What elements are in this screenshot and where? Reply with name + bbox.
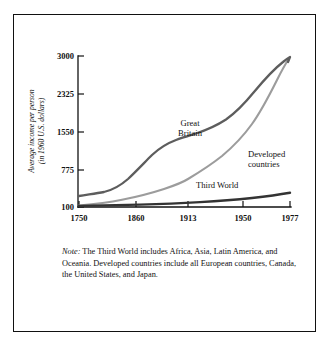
x-tick-label-1977: 1977 <box>282 213 300 223</box>
x-tick-label-1950: 1950 <box>235 213 252 223</box>
x-tick-label-1750: 1750 <box>71 213 88 223</box>
chart-note-body: The Third World includes Africa, Asia, L… <box>62 247 296 279</box>
x-tick-label-1860: 1860 <box>128 213 145 223</box>
series-label-great-britain-line2: Britain <box>178 128 203 138</box>
y-tick-label-775: 775 <box>61 165 74 175</box>
y-tick-label-3000: 3000 <box>57 51 74 61</box>
y-tick-label-2325: 2325 <box>57 89 74 99</box>
y-axis-title: Average income per person (in 1960 U.S. … <box>27 89 46 174</box>
chart-note-label: Note: <box>62 247 80 256</box>
series-label-third-world: Third World <box>196 180 239 190</box>
series-label-developed-countries-line1: Developed <box>248 149 286 159</box>
chart-note: Note: The Third World includes Africa, A… <box>62 246 300 281</box>
figure-container: 3000 2325 1550 775 100 1750 1860 1913 19… <box>0 0 331 349</box>
chart-plot-area: 3000 2325 1550 775 100 1750 1860 1913 19… <box>0 0 331 349</box>
y-tick-label-1550: 1550 <box>57 127 74 137</box>
y-axis-title-line1: Average income per person <box>27 89 36 174</box>
series-line-third-world <box>79 193 290 206</box>
y-axis-title-line2: (in 1960 U.S. dollars) <box>37 97 46 164</box>
series-label-great-britain-line1: Great <box>180 118 200 128</box>
y-tick-label-100: 100 <box>61 202 74 212</box>
x-tick-label-1913: 1913 <box>180 213 197 223</box>
series-label-developed-countries-line2: countries <box>248 159 280 169</box>
y-axis-ticks <box>78 56 84 207</box>
